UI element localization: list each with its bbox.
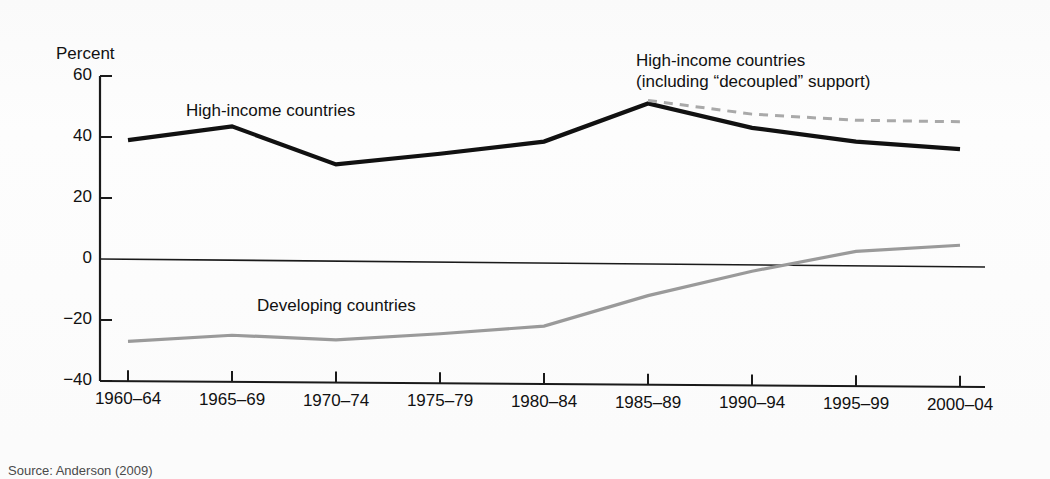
data-series-group xyxy=(128,100,960,341)
y-tick-label: 0 xyxy=(40,248,92,268)
x-tick-label: 1960–64 xyxy=(76,389,180,409)
y-tick-label: 60 xyxy=(40,65,92,85)
y-tick-label: 40 xyxy=(40,126,92,146)
x-tick-label: 1980–84 xyxy=(492,392,596,412)
x-tick-label: 1990–94 xyxy=(700,393,804,413)
x-tick-label: 2000–04 xyxy=(908,395,1012,415)
tick-marks-group xyxy=(100,76,960,387)
series-label-decoupled-line2: (including “decoupled” support) xyxy=(636,72,870,91)
series-label-decoupled-line1: High-income countries xyxy=(636,51,805,70)
y-tick-label: 20 xyxy=(40,187,92,207)
x-tick-label: 1995–99 xyxy=(804,394,908,414)
x-tick-label: 1975–79 xyxy=(388,391,492,411)
axes-group xyxy=(100,76,985,387)
source-note: Source: Anderson (2009) xyxy=(8,463,153,478)
series-label-high-income: High-income countries xyxy=(186,100,355,121)
x-tick-label: 1965–69 xyxy=(180,390,284,410)
x-tick-label: 1985–89 xyxy=(596,393,700,413)
y-tick-label: −40 xyxy=(40,370,92,390)
zero-reference-line xyxy=(100,259,985,267)
series-label-decoupled: High-income countries(including “decoupl… xyxy=(636,50,870,92)
y-tick-label: −20 xyxy=(40,309,92,329)
figure-container: Percent 6040200−20−40 1960–641965–691970… xyxy=(0,0,1050,479)
series-line xyxy=(648,100,960,121)
series-label-developing: Developing countries xyxy=(257,295,416,316)
y-axis-title: Percent xyxy=(56,44,115,64)
x-axis-line xyxy=(100,381,985,387)
x-tick-label: 1970–74 xyxy=(284,391,388,411)
